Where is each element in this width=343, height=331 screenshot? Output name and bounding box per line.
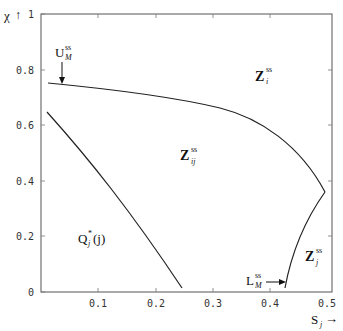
marker-l: L ss M — [246, 271, 286, 290]
x-axis-tick-labels: 0.1 0.2 0.3 0.4 0.5 — [89, 298, 336, 309]
x-tick-label: 0.1 — [89, 298, 107, 309]
svg-text:M: M — [64, 53, 73, 62]
x-tick-label: 0.2 — [147, 298, 165, 309]
svg-text:*: * — [88, 229, 92, 238]
x-tick-label: 0.5 — [318, 298, 336, 309]
svg-text:M: M — [254, 281, 263, 290]
y-axis-arrow-icon: ↑ — [15, 8, 21, 22]
svg-text:Q: Q — [78, 231, 88, 246]
svg-text:Z: Z — [180, 148, 189, 163]
svg-text:ss: ss — [191, 145, 197, 154]
svg-text:ss: ss — [65, 43, 71, 52]
svg-text:j: j — [87, 239, 91, 248]
arrow-head — [279, 279, 286, 285]
svg-text:i: i — [266, 77, 268, 86]
x-tick-label: 0.3 — [204, 298, 222, 309]
arrow-head — [59, 77, 65, 84]
svg-text:ss: ss — [266, 65, 272, 74]
y-axis-title: χ — [3, 8, 10, 23]
region-label-zij: Z ss ij — [180, 145, 197, 166]
left-boundary-curve — [47, 112, 182, 288]
marker-u: U ss M — [55, 43, 73, 84]
right-boundary-curve — [285, 192, 325, 288]
y-tick-label: 0 — [28, 287, 34, 298]
y-tick-label: 0.6 — [16, 120, 34, 131]
svg-text:Z: Z — [305, 249, 314, 264]
svg-text:j: j — [315, 258, 319, 267]
svg-text:S: S — [311, 312, 318, 327]
svg-text:ss: ss — [255, 271, 261, 280]
y-tick-label: 0.4 — [16, 176, 34, 187]
svg-text:ij: ij — [191, 157, 196, 166]
x-tick-label: 0.4 — [261, 298, 279, 309]
x-axis-arrow-icon: → — [325, 311, 338, 326]
svg-text:ss: ss — [316, 246, 322, 255]
svg-text:(j): (j) — [93, 231, 105, 246]
svg-text:L: L — [246, 273, 254, 288]
upper-boundary-curve — [48, 83, 325, 192]
chart: 0 0.2 0.4 0.6 0.8 1 χ ↑ 0.1 0.2 0.3 0.4 … — [0, 0, 343, 331]
x-axis-title: S j → — [311, 311, 338, 329]
y-tick-label: 0.8 — [16, 65, 34, 76]
y-tick-label: 1 — [28, 9, 34, 20]
svg-text:j: j — [319, 320, 323, 329]
y-axis-tick-labels: 0 0.2 0.4 0.6 0.8 1 — [16, 9, 34, 298]
region-label-zi: Z ss i — [255, 65, 272, 86]
region-label-q: Q * j (j) — [78, 229, 105, 248]
svg-text:Z: Z — [255, 69, 264, 84]
y-tick-label: 0.2 — [16, 231, 34, 242]
region-label-zj: Z ss j — [305, 246, 322, 267]
svg-text:U: U — [55, 45, 65, 60]
